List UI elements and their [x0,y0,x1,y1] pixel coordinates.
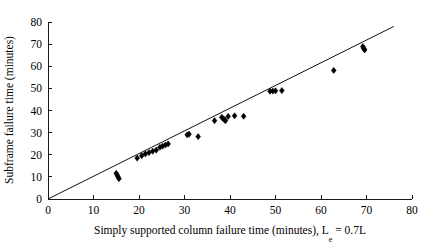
data-point [232,113,237,119]
y-tick-label: 0 [36,193,42,205]
y-tick-label: 50 [31,82,43,94]
y-tick-label: 30 [31,127,43,139]
scatter-plot-figure: 01020304050607080 01020304050607080 Simp… [0,0,435,243]
x-tick-label: 30 [179,204,191,216]
plot-canvas: 01020304050607080 01020304050607080 Simp… [0,0,435,243]
x-tick-label: 40 [224,204,236,216]
y-tick-label: 70 [31,38,43,50]
x-tick-group: 01020304050607080 [45,195,418,216]
x-axis-title-main: Simply supported column failure time (mi… [94,224,329,237]
data-point [279,87,284,93]
y-axis-title-group: Subframe failure time (minutes) [3,36,16,184]
y-tick-label: 80 [31,16,43,28]
x-tick-label: 10 [88,204,100,216]
axes-group [48,22,412,199]
y-tick-label: 20 [31,149,43,161]
data-point [212,118,217,124]
y-tick-label: 60 [31,60,43,72]
y-axis-title: Subframe failure time (minutes) [3,36,16,184]
x-tick-label: 60 [315,204,327,216]
x-axis-title: Simply supported column failure time (mi… [94,224,366,243]
data-point [331,67,336,73]
x-tick-label: 70 [361,204,373,216]
data-points-group [114,43,367,181]
x-axis-title-group: Simply supported column failure time (mi… [94,224,366,243]
y-tick-label: 10 [31,171,43,183]
reference-line [48,26,394,199]
y-tick-group: 01020304050607080 [31,16,53,205]
data-point [196,134,201,140]
data-point [241,113,246,119]
reference-line-group [48,26,394,199]
x-axis-title-tail: = 0.7L [332,224,366,236]
x-tick-label: 0 [45,204,51,216]
x-tick-label: 80 [406,204,418,216]
x-tick-label: 50 [270,204,282,216]
data-point [135,155,140,161]
y-tick-label: 40 [31,105,43,117]
x-tick-label: 20 [133,204,145,216]
